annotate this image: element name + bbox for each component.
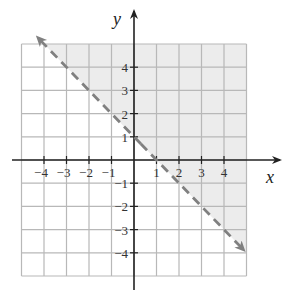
y-tick-label: 3 — [122, 83, 129, 98]
x-tick-label: −2 — [79, 165, 93, 180]
y-tick-label: −1 — [114, 176, 128, 191]
y-tick-label: −3 — [114, 223, 128, 238]
y-tick-label: 4 — [122, 60, 129, 75]
x-tick-label: −3 — [57, 165, 71, 180]
x-axis-label: x — [265, 167, 274, 187]
y-tick-label: −2 — [114, 199, 128, 214]
graph-container: −4−3−2−11234−4−3−2−11234 y x — [0, 0, 293, 296]
x-tick-label: 2 — [176, 165, 183, 180]
y-tick-label: 2 — [122, 107, 129, 122]
y-axis-label: y — [111, 9, 121, 29]
x-tick-label: 1 — [153, 165, 160, 180]
inequality-graph: −4−3−2−11234−4−3−2−11234 y x — [0, 0, 293, 296]
x-tick-label: 3 — [198, 165, 205, 180]
y-tick-label: −4 — [114, 246, 128, 261]
x-tick-label: 4 — [221, 165, 228, 180]
y-tick-label: 1 — [122, 130, 129, 145]
x-tick-label: −4 — [34, 165, 48, 180]
